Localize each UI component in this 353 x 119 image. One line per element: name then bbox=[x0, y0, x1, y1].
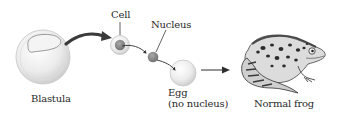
curved-arrow-icon bbox=[66, 31, 112, 44]
frog-icon bbox=[242, 35, 326, 93]
cell-label: Cell bbox=[111, 9, 130, 20]
blastula-icon bbox=[16, 30, 70, 84]
frog-label: Normal frog bbox=[254, 98, 314, 109]
cell-icon bbox=[111, 22, 130, 55]
straight-arrow-icon bbox=[201, 67, 230, 74]
nuclear-transfer-diagram: Blastula Cell Nucleus Egg (no nucleus) N… bbox=[0, 0, 353, 119]
nucleus-icon bbox=[148, 30, 166, 62]
egg-icon bbox=[170, 60, 196, 86]
egg-label: Egg bbox=[168, 87, 188, 98]
nucleus-label: Nucleus bbox=[151, 19, 191, 30]
blastula-label: Blastula bbox=[31, 93, 71, 104]
egg-note-label: (no nucleus) bbox=[168, 98, 228, 109]
